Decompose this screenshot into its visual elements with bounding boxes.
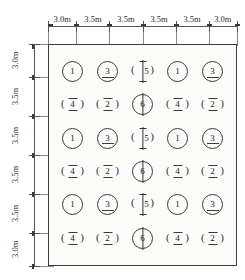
grid-cell: 1 [160, 188, 195, 221]
left-dimension-label: 3.0m [10, 44, 20, 77]
top-dimension-arrow [48, 24, 53, 26]
left-dimension-arrow [32, 264, 34, 269]
marker-diameter-bar [142, 60, 143, 83]
marker-number: 2 [105, 100, 110, 109]
marker-number: 6 [140, 167, 145, 176]
grid-cell: 3 [90, 55, 125, 88]
top-dimension-label: 3.5m [176, 14, 209, 24]
marker-paren-right: ) [80, 98, 84, 109]
marker-grid: 13()513()4()26()4()213()513()4()26()4()2… [49, 45, 236, 265]
marker-number: 3 [105, 200, 110, 209]
column-marker-3: 3 [97, 194, 118, 215]
left-dimension-arrow [32, 44, 34, 49]
marker-diameter-bar [142, 193, 143, 216]
marker-number: 2 [210, 167, 215, 176]
grid-cell: 3 [90, 188, 125, 221]
marker-diameter-bar [142, 127, 143, 150]
grid-cell: ()4 [160, 88, 195, 121]
marker-paren-left: ( [131, 64, 135, 75]
marker-number: 3 [210, 67, 215, 76]
grid-cell: 1 [55, 188, 90, 221]
marker-number: 3 [105, 134, 110, 143]
marker-number: 4 [70, 234, 75, 243]
marker-paren-left: ( [96, 165, 100, 176]
marker-paren-right: ) [115, 232, 119, 243]
left-dimension-label: 3.0m [10, 233, 20, 266]
left-dimension-label: 3.5m [10, 77, 20, 116]
marker-paren-left: ( [166, 165, 170, 176]
grid-cell: ()4 [55, 155, 90, 188]
marker-number: 3 [210, 134, 215, 143]
plan-outline: 13()513()4()26()4()213()513()4()26()4()2… [48, 44, 237, 266]
marker-paren-right: ) [220, 98, 224, 109]
marker-number: 1 [70, 200, 75, 209]
top-dimension-label: 3.0m [209, 14, 237, 24]
column-marker-1: 1 [62, 128, 83, 149]
marker-number: 1 [175, 200, 180, 209]
column-marker-3: 3 [202, 61, 223, 82]
grid-cell: ()4 [55, 88, 90, 121]
marker-paren-left: ( [131, 197, 135, 208]
column-marker-2: ()2 [97, 161, 118, 182]
column-marker-1: 1 [62, 194, 83, 215]
column-marker-3: 3 [97, 61, 118, 82]
column-marker-6: 6 [132, 94, 153, 115]
marker-paren-left: ( [131, 131, 135, 142]
left-dimension-arrow [32, 153, 34, 158]
marker-paren-left: ( [201, 232, 205, 243]
top-dimension-arrow [107, 24, 112, 26]
left-dimension-arrow [32, 192, 34, 197]
marker-chord-bar [207, 210, 219, 211]
marker-paren-left: ( [96, 232, 100, 243]
top-dimension-chain: 3.0m3.5m3.5m3.5m3.5m3.0m [48, 14, 237, 46]
top-dimension-arrow [235, 24, 240, 26]
left-dimension-label: 3.5m [10, 155, 20, 194]
grid-cell: ()4 [160, 222, 195, 255]
left-dimension-arrow [32, 231, 34, 236]
marker-paren-left: ( [61, 232, 65, 243]
marker-number: 1 [175, 67, 180, 76]
marker-paren-left: ( [96, 98, 100, 109]
marker-paren-right: ) [150, 197, 154, 208]
column-marker-3: 3 [97, 128, 118, 149]
marker-underbar [68, 177, 77, 178]
marker-paren-right: ) [115, 98, 119, 109]
grid-cell: 1 [160, 122, 195, 155]
left-dimension-arrow [32, 75, 34, 80]
marker-number: 5 [144, 67, 149, 76]
marker-number: 3 [105, 67, 110, 76]
column-marker-4: ()4 [167, 228, 188, 249]
marker-number: 6 [140, 100, 145, 109]
column-marker-1: 1 [167, 61, 188, 82]
marker-paren-right: ) [80, 232, 84, 243]
marker-paren-right: ) [115, 165, 119, 176]
column-marker-4: ()4 [62, 161, 83, 182]
column-marker-1: 1 [167, 128, 188, 149]
marker-number: 5 [144, 134, 149, 143]
column-marker-5: ()5 [132, 194, 153, 215]
column-marker-3: 3 [202, 194, 223, 215]
marker-underbar [103, 177, 112, 178]
grid-cell: ()2 [195, 155, 230, 188]
marker-number: 3 [210, 200, 215, 209]
column-marker-2: ()2 [202, 228, 223, 249]
marker-number: 6 [140, 234, 145, 243]
marker-paren-left: ( [201, 98, 205, 109]
marker-underbar [208, 110, 217, 111]
column-marker-2: ()2 [202, 161, 223, 182]
top-dimension-arrow [207, 24, 212, 26]
column-marker-1: 1 [167, 194, 188, 215]
column-grid-figure: 3.0m3.5m3.5m3.5m3.5m3.0m 3.0m3.5m3.5m3.5… [0, 0, 245, 280]
column-marker-4: ()4 [62, 94, 83, 115]
grid-cell: ()2 [90, 155, 125, 188]
marker-underbar [173, 177, 182, 178]
column-marker-5: ()5 [132, 128, 153, 149]
grid-cell: 1 [55, 55, 90, 88]
column-marker-6: 6 [132, 228, 153, 249]
top-dimension-label: 3.5m [109, 14, 142, 24]
column-marker-4: ()4 [62, 228, 83, 249]
grid-cell: ()2 [90, 88, 125, 121]
marker-underbar [103, 110, 112, 111]
top-dimension-arrow [141, 24, 146, 26]
grid-cell: 3 [195, 55, 230, 88]
